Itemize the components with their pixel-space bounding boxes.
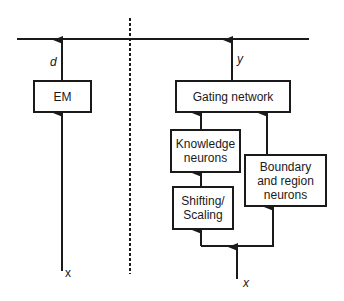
- gating-network-label: Gating network: [193, 90, 274, 104]
- em-box: EM: [33, 80, 92, 113]
- boundary-region-neurons-label: Boundary and region neurons: [253, 160, 319, 202]
- knowledge-neurons-box: Knowledge neurons: [170, 129, 241, 173]
- shifting-scaling-label: Shifting/ Scaling: [177, 194, 229, 222]
- boundary-region-neurons-box: Boundary and region neurons: [244, 154, 327, 207]
- input-label-x-right: x: [243, 276, 249, 290]
- shifting-scaling-box: Shifting/ Scaling: [172, 186, 234, 230]
- knowledge-neurons-label: Knowledge neurons: [175, 137, 237, 165]
- output-label-d: d: [50, 55, 57, 69]
- gating-network-box: Gating network: [175, 80, 291, 113]
- input-label-x-left: x: [65, 266, 71, 280]
- output-label-y: y: [237, 52, 243, 66]
- em-label: EM: [54, 90, 72, 104]
